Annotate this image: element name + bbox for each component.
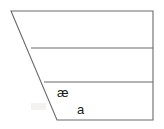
vowel-label-ae: æ	[57, 86, 69, 99]
vowel-label-a: a	[77, 103, 84, 116]
scan-smudge	[31, 103, 46, 110]
vowel-quadrilateral-figure: æ a	[0, 0, 164, 129]
